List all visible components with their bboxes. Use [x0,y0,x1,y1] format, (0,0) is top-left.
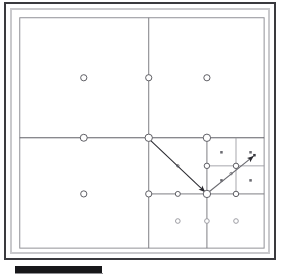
left-edge-hanging-node[interactable] [80,134,87,141]
q2-center-node[interactable] [204,75,210,81]
q4c-center-node[interactable] [175,219,180,224]
q4-left-edge-node[interactable] [175,191,180,196]
q2-bottom-hanging-node[interactable] [203,134,210,141]
q1-center-node[interactable] [81,75,87,81]
q3-right-hanging-node[interactable] [146,191,152,197]
arrow-target-marker [253,154,256,157]
top-edge-hanging-node[interactable] [146,75,152,81]
horizontal-scrollbar-thumb[interactable] [15,266,102,273]
q3-center-node[interactable] [81,191,87,197]
root-center-node[interactable] [145,134,152,141]
q4e-center-node[interactable] [234,219,239,224]
subdivision-lines [20,18,264,248]
q4-center-node[interactable] [203,190,210,197]
q4d-top-node[interactable] [233,191,238,196]
leaf-cell-center-nw [220,151,223,154]
q4a-center-node[interactable] [233,163,238,168]
mesh-diagram-canvas[interactable] [12,10,268,252]
leaf-cell-center-ne [249,151,252,154]
parent-to-child-arrow [150,140,205,192]
q4a-left-node[interactable] [204,163,209,168]
mesh-canvas-border [10,8,270,254]
quadtree-viewer-app: Quadtree Mesh Refinement Viewer [0,0,282,276]
child-to-leaf-arrow [209,156,254,192]
root-domain-rect [20,18,264,248]
scrollbar-thumb-shadow [15,273,103,274]
window-frame [4,2,276,260]
leaf-cell-center-se [249,179,252,182]
q4d-center-node[interactable] [205,219,210,224]
